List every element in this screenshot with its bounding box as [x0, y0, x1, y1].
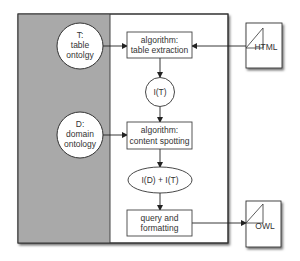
node-label: algorithm: — [141, 35, 178, 45]
table-ontology-node: T: table ontolgy — [57, 23, 103, 69]
node-label: query and — [141, 213, 179, 223]
node-label: HTML — [254, 42, 277, 52]
node-label: ontology — [64, 139, 97, 149]
node-label: I(D) + I(T) — [141, 175, 178, 185]
outer-frame — [18, 14, 228, 243]
node-label: T: — [77, 30, 84, 40]
node-label: OWL — [255, 221, 275, 231]
domain-ontology-node: D: domain ontology — [57, 112, 103, 158]
query-formatting-node: query and formatting — [127, 210, 192, 236]
html-document-icon: HTML — [246, 23, 282, 68]
interpretation-dt-node: I(D) + I(T) — [128, 167, 192, 193]
node-label: table extraction — [131, 45, 189, 55]
node-label: content spotting — [129, 136, 189, 146]
pipeline-diagram: T: table ontolgy D: domain ontology algo… — [0, 0, 300, 261]
content-spotting-node: algorithm: content spotting — [127, 122, 192, 149]
node-label: table — [71, 40, 90, 50]
owl-document-icon: OWL — [246, 201, 281, 247]
node-label: algorithm: — [141, 125, 178, 135]
node-label: domain — [66, 129, 94, 139]
node-label: D: — [76, 119, 85, 129]
interpretation-t-node: I(T) — [146, 78, 175, 107]
table-extraction-node: algorithm: table extraction — [127, 32, 192, 58]
node-label: formatting — [141, 223, 179, 233]
node-label: I(T) — [153, 87, 166, 97]
node-label: ontolgy — [66, 50, 94, 60]
